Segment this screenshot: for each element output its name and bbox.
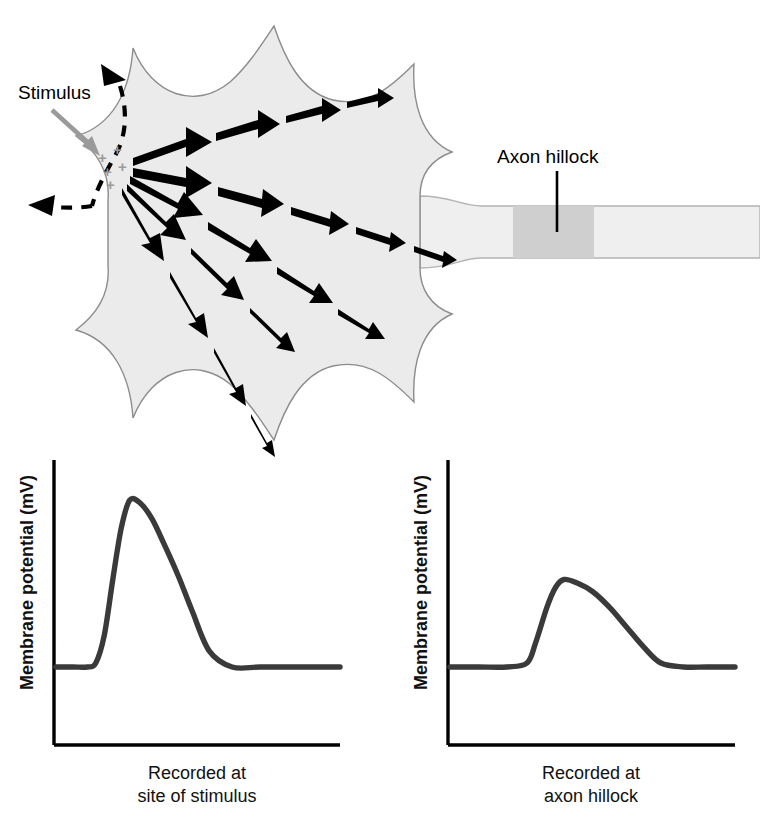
soma-body [76, 26, 452, 440]
chart-caption-line-1: Recorded at [148, 763, 246, 783]
axon-hillock-label: Axon hillock [497, 146, 599, 167]
neuron-graded-potential-figure: + + + + + [0, 0, 760, 825]
y-axis-label: Membrane potential (mV) [17, 475, 37, 690]
chart-caption-line-1: Recorded at [542, 763, 640, 783]
charge-plus-icon: + [113, 141, 122, 158]
chart-caption-line-2: axon hillock [544, 786, 639, 806]
chart-caption-line-2: site of stimulus [137, 786, 256, 806]
charge-plus-icon: + [118, 158, 127, 175]
charge-plus-icon: + [106, 176, 115, 193]
stimulus-label: Stimulus [18, 82, 91, 103]
y-axis-label: Membrane potential (mV) [411, 475, 431, 690]
